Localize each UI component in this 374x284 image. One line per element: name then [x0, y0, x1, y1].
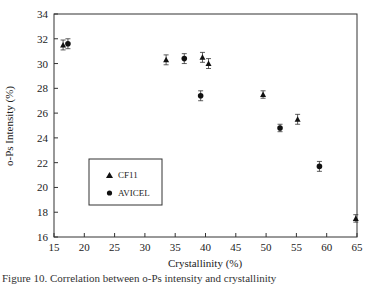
legend-label-avicel: AVICEL — [118, 188, 150, 198]
legend-label-cf11: CF11 — [118, 170, 138, 180]
legend: CF11 AVICEL — [89, 159, 162, 205]
y-tick-label: 20 — [37, 181, 49, 193]
x-tick-label: 40 — [200, 241, 212, 253]
y-axis: 16182022242628303234 — [37, 8, 58, 243]
triangle-marker-icon — [295, 116, 301, 122]
circle-marker-icon — [277, 125, 283, 131]
x-axis: 1520253035404550556065 — [49, 233, 364, 253]
x-tick-label: 20 — [79, 241, 91, 253]
y-tick-label: 22 — [37, 157, 48, 169]
y-tick-label: 34 — [37, 8, 49, 20]
y-tick-label: 32 — [37, 33, 48, 45]
x-tick-label: 65 — [352, 241, 364, 253]
figure-caption: Figure 10. Correlation between o-Ps inte… — [2, 272, 276, 284]
x-tick-label: 25 — [109, 241, 121, 253]
x-axis-title: Crystallinity (%) — [168, 257, 243, 270]
x-tick-label: 30 — [139, 241, 151, 253]
y-tick-label: 16 — [37, 231, 49, 243]
y-tick-label: 28 — [37, 82, 49, 94]
x-tick-label: 15 — [49, 241, 61, 253]
triangle-marker-icon — [353, 215, 359, 221]
series-avicel — [65, 39, 322, 172]
x-tick-label: 45 — [230, 241, 242, 253]
x-tick-label: 50 — [261, 241, 273, 253]
y-tick-label: 30 — [37, 58, 49, 70]
triangle-marker-icon — [206, 61, 212, 67]
y-axis-title: o-Ps Intensity (%) — [3, 86, 16, 166]
circle-marker-icon — [198, 93, 204, 99]
y-tick-label: 18 — [37, 206, 49, 218]
y-tick-label: 26 — [37, 107, 49, 119]
x-tick-label: 35 — [170, 241, 182, 253]
x-tick-label: 55 — [291, 241, 303, 253]
y-tick-label: 24 — [37, 132, 49, 144]
legend-box — [89, 159, 162, 205]
circle-marker-icon — [107, 190, 112, 195]
circle-marker-icon — [181, 56, 187, 62]
circle-marker-icon — [65, 41, 71, 47]
triangle-marker-icon — [260, 92, 266, 98]
triangle-marker-icon — [199, 54, 205, 60]
x-tick-label: 60 — [321, 241, 333, 253]
circle-marker-icon — [317, 164, 323, 170]
triangle-marker-icon — [60, 42, 66, 48]
triangle-marker-icon — [163, 57, 169, 63]
